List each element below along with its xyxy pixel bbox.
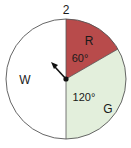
spinner-diagram: 2 R 60° 120° G W bbox=[0, 0, 131, 148]
sector-angle-g: 120° bbox=[73, 91, 96, 103]
sector-label-g: G bbox=[103, 102, 112, 116]
pivot-dot bbox=[63, 76, 68, 81]
spinner-number: 2 bbox=[63, 3, 70, 17]
sector-label-w: W bbox=[19, 73, 31, 87]
sector-label-r: R bbox=[85, 34, 94, 48]
sector-angle-r: 60° bbox=[72, 52, 89, 64]
